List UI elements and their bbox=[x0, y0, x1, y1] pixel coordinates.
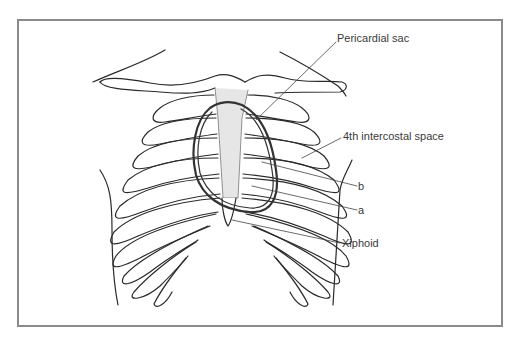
left-body-outline bbox=[100, 170, 118, 305]
label-pericardial-sac: Pericardial sac bbox=[337, 32, 409, 44]
ribcage-illustration bbox=[0, 0, 520, 348]
right-neck-line bbox=[280, 52, 346, 96]
left-ribs bbox=[111, 95, 220, 306]
label-b: b bbox=[358, 180, 364, 192]
right-clavicle bbox=[245, 75, 346, 93]
left-neck-line bbox=[93, 50, 165, 82]
xiphoid-process bbox=[222, 198, 236, 226]
leader-intercostal bbox=[302, 138, 341, 158]
label-a: a bbox=[358, 204, 364, 216]
left-clavicle bbox=[100, 75, 245, 86]
label-4th-intercostal-space: 4th intercostal space bbox=[343, 130, 444, 142]
label-xiphoid: Xiphoid bbox=[342, 237, 379, 249]
leader-xiphoid bbox=[232, 220, 340, 243]
